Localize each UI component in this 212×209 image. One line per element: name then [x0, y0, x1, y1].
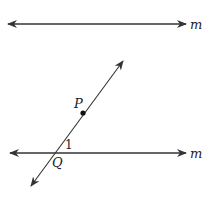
angle-1-label: 1 — [65, 138, 73, 152]
point-p-label: P — [73, 96, 83, 111]
line-m-bottom-label: m — [190, 146, 202, 161]
point-p — [80, 110, 85, 115]
line-m-top-label: m — [190, 17, 202, 32]
point-q-label: Q — [52, 155, 63, 170]
transversal-line — [31, 61, 123, 186]
geometry-diagram: m m P Q 1 — [0, 0, 212, 209]
